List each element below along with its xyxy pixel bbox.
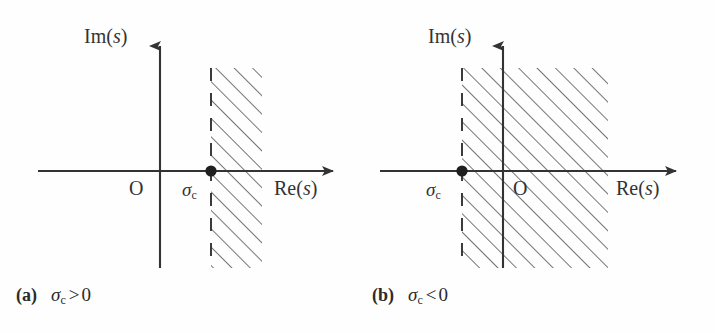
figure-root: Im(s) Re(s) O σc (a)σc>0 — [0, 0, 715, 333]
real-axis-label-a: Re(s) — [274, 178, 317, 198]
origin-label-b: O — [513, 178, 527, 198]
origin-label-a: O — [129, 178, 143, 198]
panel-b-tag: (b) — [372, 285, 394, 305]
panel-a: Im(s) Re(s) O σc (a)σc>0 — [0, 0, 358, 333]
sigma-c-point-b — [456, 165, 467, 176]
panel-b: Im(s) Re(s) O σc (b)σc<0 — [358, 0, 715, 333]
sigma-c-label-b: σc — [426, 180, 441, 201]
panel-a-condition: σc>0 — [51, 284, 91, 305]
imag-axis-label-a: Im(s) — [84, 26, 127, 46]
sigma-c-point-a — [205, 165, 216, 176]
panel-a-tag: (a) — [16, 285, 37, 305]
roc-region-a — [211, 68, 262, 268]
panel-b-caption: (b)σc<0 — [372, 285, 448, 306]
sigma-c-label-a: σc — [182, 180, 197, 201]
panel-b-condition: σc<0 — [408, 284, 448, 305]
imag-axis-label-b: Im(s) — [428, 26, 471, 46]
panel-a-caption: (a)σc>0 — [16, 285, 91, 306]
roc-region-b — [462, 68, 608, 268]
real-axis-label-b: Re(s) — [616, 178, 659, 198]
